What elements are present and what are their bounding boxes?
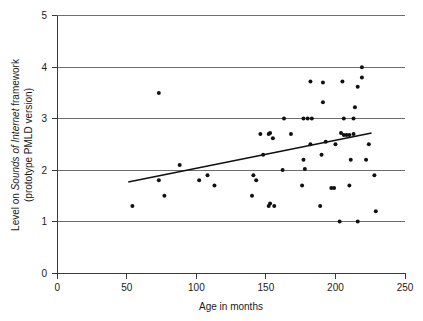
- data-point: [360, 75, 364, 79]
- y-tick-label-3: 3: [41, 113, 47, 124]
- x-tick-label-150: 150: [258, 282, 275, 293]
- data-point: [268, 131, 272, 135]
- y-axis-title-italic: Sounds of Internet: [10, 107, 21, 190]
- data-point: [349, 158, 353, 162]
- data-point: [356, 220, 360, 224]
- data-point: [162, 194, 166, 198]
- x-tick-label-0: 0: [55, 282, 61, 293]
- data-point: [372, 173, 376, 177]
- data-point: [157, 178, 161, 182]
- data-point: [367, 142, 371, 146]
- data-point: [258, 132, 262, 136]
- data-point: [251, 173, 255, 177]
- y-tick-label-4: 4: [41, 62, 47, 73]
- data-point: [342, 117, 346, 121]
- x-tick-label-200: 200: [327, 282, 344, 293]
- data-point: [356, 85, 360, 89]
- data-point: [272, 204, 276, 208]
- svg-text:Level on Sounds of Internet fr: Level on Sounds of Internet framework: [10, 58, 21, 231]
- data-point: [212, 184, 216, 188]
- data-point: [353, 105, 357, 109]
- data-point: [282, 117, 286, 121]
- data-point: [308, 80, 312, 84]
- data-point: [289, 132, 293, 136]
- x-axis-title: Age in months: [199, 301, 263, 312]
- x-tick-label-250: 250: [397, 282, 414, 293]
- data-point: [268, 202, 272, 206]
- data-point: [300, 184, 304, 188]
- y-tick-label-5: 5: [41, 10, 47, 21]
- data-point: [306, 117, 310, 121]
- data-point: [310, 117, 314, 121]
- data-point: [303, 167, 307, 171]
- data-point: [318, 204, 322, 208]
- y-axis-title-part1: Level on: [10, 190, 21, 231]
- data-point: [178, 163, 182, 167]
- data-point: [320, 153, 324, 157]
- data-point: [271, 136, 275, 140]
- data-point: [157, 91, 161, 95]
- data-point: [250, 194, 254, 198]
- data-point: [338, 220, 342, 224]
- data-point: [197, 178, 201, 182]
- data-point: [281, 168, 285, 172]
- data-point: [301, 158, 305, 162]
- y-axis-title-part2: framework: [10, 58, 21, 108]
- scatter-plot-figure: 050100150200250 012345 Age in months Lev…: [0, 0, 423, 321]
- y-axis-title-line2: (prototype PMLD version): [23, 88, 34, 202]
- data-point: [374, 209, 378, 213]
- data-point: [352, 117, 356, 121]
- data-point: [301, 117, 305, 121]
- data-point: [347, 184, 351, 188]
- y-tick-label-2: 2: [41, 165, 47, 176]
- data-point: [352, 132, 356, 136]
- data-point: [364, 158, 368, 162]
- data-point: [206, 173, 210, 177]
- data-point: [333, 142, 337, 146]
- data-point: [321, 81, 325, 85]
- data-point: [130, 204, 134, 208]
- y-tick-label-1: 1: [41, 216, 47, 227]
- data-point: [321, 100, 325, 104]
- y-tick-label-0: 0: [41, 268, 47, 279]
- x-tick-label-100: 100: [188, 282, 205, 293]
- data-point: [332, 186, 336, 190]
- data-point: [340, 80, 344, 84]
- data-point: [360, 65, 364, 69]
- x-tick-label-50: 50: [121, 282, 133, 293]
- data-point: [254, 178, 258, 182]
